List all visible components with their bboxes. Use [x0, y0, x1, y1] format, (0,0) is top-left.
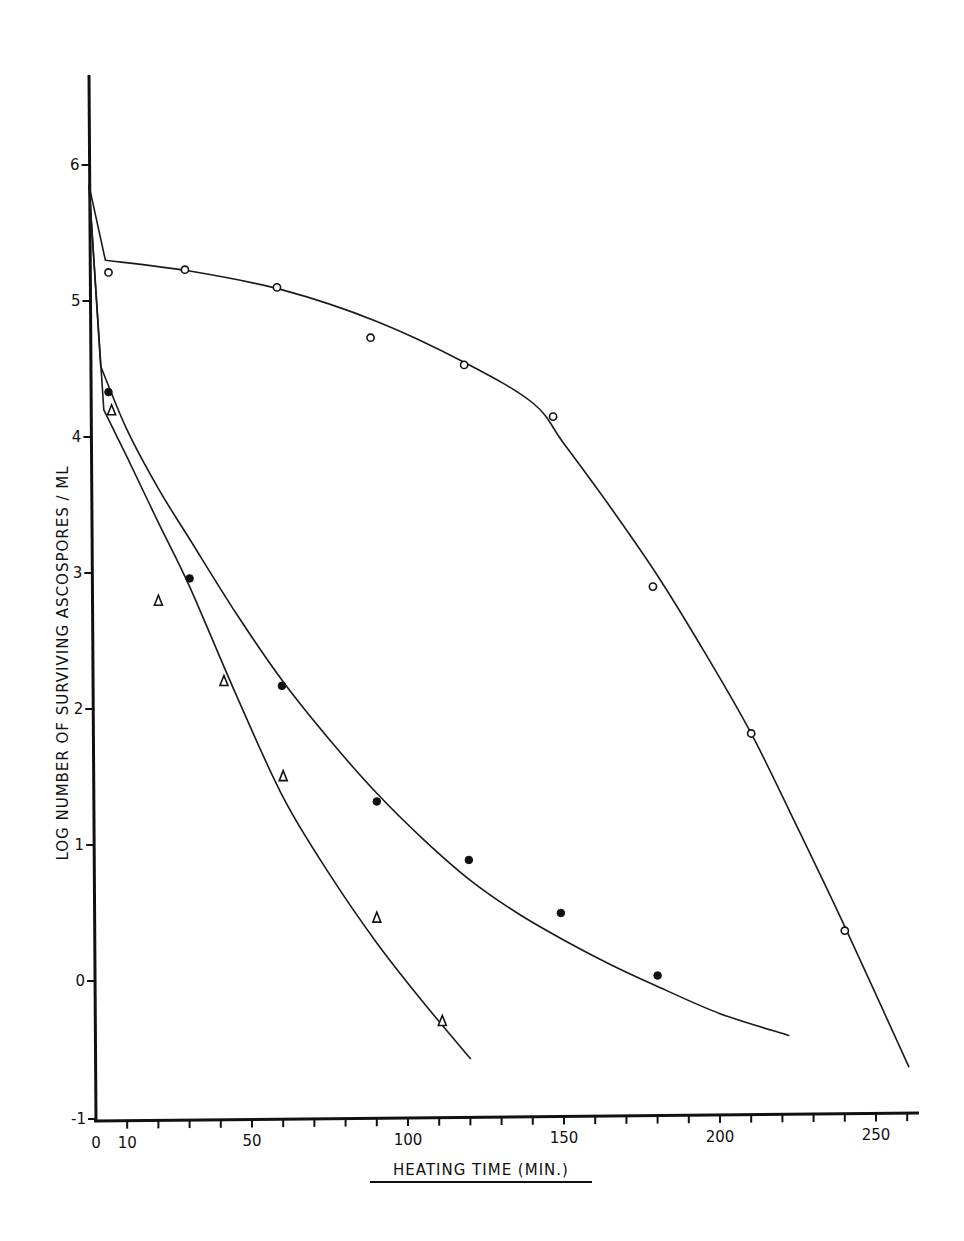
- x-tick-label: 150: [550, 1129, 579, 1147]
- x-tick-label: 50: [242, 1132, 261, 1150]
- x-tick-label: 250: [862, 1126, 891, 1144]
- open-circle-marker: [461, 361, 468, 368]
- y-tick-label: 2: [74, 700, 84, 718]
- y-tick-label: 0: [76, 972, 86, 990]
- open-circle-marker: [748, 730, 755, 737]
- open-circle-marker: [105, 269, 112, 276]
- y-tick-label: 3: [73, 564, 83, 582]
- curve-open-circles: [89, 185, 909, 1066]
- y-tick-label: 4: [72, 428, 82, 446]
- open-circle-marker: [549, 413, 556, 420]
- open-circle-marker: [181, 266, 188, 273]
- filled-circle-marker: [557, 909, 565, 917]
- data-markers: [105, 266, 849, 1025]
- open-circle-marker: [841, 927, 848, 934]
- filled-circle-marker: [278, 682, 286, 690]
- x-tick-label: 0: [91, 1134, 101, 1152]
- triangle-marker: [220, 675, 228, 685]
- x-axis: [94, 1113, 919, 1121]
- triangle-marker: [108, 405, 116, 415]
- open-circle-marker: [367, 334, 374, 341]
- x-tick-label: 10: [118, 1134, 137, 1152]
- filled-circle-marker: [465, 856, 473, 864]
- y-tick-label: 1: [75, 836, 85, 854]
- curve-filled-circles: [89, 185, 789, 1035]
- y-axis-title: LOG NUMBER OF SURVIVING ASCOSPORES / ML: [54, 465, 72, 860]
- x-tick-label: 100: [394, 1131, 423, 1149]
- fitted-curves: [89, 185, 909, 1066]
- y-tick-label: 6: [70, 156, 80, 174]
- y-tick-label: -1: [71, 1110, 86, 1128]
- filled-circle-marker: [105, 388, 113, 396]
- open-circle-marker: [649, 583, 656, 590]
- filled-circle-marker: [186, 575, 194, 583]
- axes: [89, 75, 919, 1122]
- y-tick-label: 5: [71, 292, 81, 310]
- triangle-marker: [154, 595, 162, 605]
- open-circle-marker: [273, 284, 280, 291]
- curve-triangles: [89, 185, 470, 1058]
- filled-circle-marker: [373, 798, 381, 806]
- triangle-marker: [373, 912, 381, 922]
- x-tick-label: 200: [706, 1128, 735, 1146]
- triangle-marker: [438, 1015, 446, 1025]
- x-axis-title: HEATING TIME (MIN.): [393, 1161, 569, 1179]
- filled-circle-marker: [654, 972, 662, 980]
- triangle-marker: [279, 771, 287, 781]
- chart: -10123456 01050100150200250 LOG NUMBER O…: [0, 0, 964, 1241]
